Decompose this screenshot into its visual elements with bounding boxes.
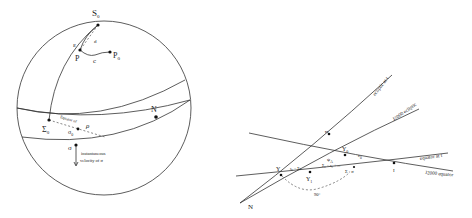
- label-bottom: 90°: [314, 192, 321, 197]
- sigma-point-r: [353, 166, 355, 168]
- sigma-point: [74, 143, 77, 146]
- celestial-sphere-figure: S0 P P0 c ε d N Σ0 σ0 σ ρ Equator of ins…: [17, 8, 191, 195]
- label-sigma0: σ0: [68, 129, 73, 137]
- label-equator-of: Equator of: [60, 114, 78, 124]
- j2000-ecliptic-line: [240, 109, 419, 203]
- label-i: I: [393, 168, 395, 173]
- gamma0-point: [344, 154, 347, 157]
- label-equator-at-t: equator at t: [419, 153, 443, 161]
- label-c: c: [93, 57, 96, 65]
- label-epsilon: ε: [73, 41, 76, 49]
- label-sigma: σ: [68, 144, 72, 152]
- ecliptic-at-t-line: [240, 75, 392, 203]
- gamma-point: [280, 174, 283, 177]
- i-point: [393, 162, 396, 165]
- c-curve: [80, 50, 110, 55]
- gamma1-point: [309, 171, 312, 174]
- label-n-right: N: [248, 203, 253, 211]
- label-arc2: Σ₀ − s₀ + ...: [322, 163, 340, 168]
- label-s0: S0: [92, 8, 100, 19]
- p0-point: [108, 50, 111, 53]
- label-j2000-equator: J2000 equator: [425, 170, 454, 177]
- label-gamma: Υ: [276, 166, 281, 172]
- great-circle-arc: [17, 80, 185, 114]
- label-rho: ρ: [85, 122, 90, 130]
- diagram-canvas: S0 P P0 c ε d N Σ0 σ0 σ ρ Equator of ins…: [0, 0, 472, 218]
- sigma0-big-point: [47, 118, 50, 121]
- label-p: P: [75, 54, 80, 63]
- s0-point: [96, 23, 99, 26]
- label-gamma1: Υ1: [306, 176, 312, 184]
- label-n: N: [151, 105, 157, 114]
- equator-at-t-line: [236, 153, 448, 176]
- p-point: [78, 48, 81, 51]
- sigma0-point: [77, 128, 80, 131]
- sphere-outline: [17, 21, 191, 195]
- label-arc1: s₀ − Σs: [290, 166, 302, 171]
- label-sigma-right: Σ · σ: [345, 169, 354, 174]
- label-eps0: ε0: [358, 153, 362, 160]
- ecliptic-equator-figure: ecliptic at t J2000 ecliptic equator at …: [236, 75, 454, 211]
- label-velocity-2: velocity of σ: [80, 158, 103, 163]
- meridian-arc: [49, 25, 98, 120]
- label-ecliptic-at-t: ecliptic at t: [372, 76, 390, 97]
- dashed-arc: [282, 172, 350, 190]
- label-d: d: [94, 39, 97, 44]
- label-p0: P0: [113, 51, 120, 61]
- label-velocity-1: instantaneous: [81, 151, 106, 156]
- n-point: [154, 115, 158, 119]
- s0-p-dashed: [80, 25, 98, 50]
- label-sigma0-cap: Σ0: [42, 125, 50, 135]
